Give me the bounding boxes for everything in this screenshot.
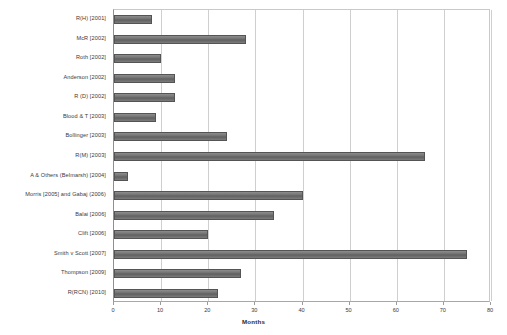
y-axis-label: R(RCN) [2010] bbox=[68, 289, 106, 296]
y-axis-label: A & Others (Belmarsh) [2004] bbox=[30, 172, 106, 179]
bar bbox=[114, 269, 241, 278]
bar-row bbox=[114, 170, 489, 182]
bar-row bbox=[114, 111, 489, 123]
bar bbox=[114, 93, 175, 102]
x-tick-mark-70 bbox=[443, 302, 444, 305]
bar bbox=[114, 74, 175, 83]
x-tick-mark-10 bbox=[160, 302, 161, 305]
bar-row bbox=[114, 268, 489, 280]
bar bbox=[114, 211, 274, 220]
plot-area bbox=[113, 9, 490, 302]
y-axis-label: Roth [2002] bbox=[76, 54, 106, 61]
y-axis-label: McR [2002] bbox=[76, 35, 106, 42]
x-tick-label-40: 40 bbox=[298, 306, 304, 314]
bar bbox=[114, 230, 208, 239]
x-tick-mark-0 bbox=[113, 302, 114, 305]
x-axis-ticks: 01020304050607080 bbox=[113, 302, 490, 316]
x-tick-label-30: 30 bbox=[251, 306, 257, 314]
x-tick-mark-60 bbox=[396, 302, 397, 305]
y-axis-label: Bollinger [2003] bbox=[66, 132, 106, 139]
x-tick-label-0: 0 bbox=[111, 306, 114, 314]
x-tick-mark-20 bbox=[207, 302, 208, 305]
bar bbox=[114, 289, 218, 298]
x-tick-label-20: 20 bbox=[204, 306, 210, 314]
bar-row bbox=[114, 229, 489, 241]
y-axis-label: Smith v Scott [2007] bbox=[54, 250, 106, 257]
y-axis-label: Morris [2005] and Gabaj (2006) bbox=[25, 191, 106, 198]
bar bbox=[114, 15, 152, 24]
gridline-80 bbox=[491, 10, 492, 301]
x-tick-label-50: 50 bbox=[346, 306, 352, 314]
bar-row bbox=[114, 190, 489, 202]
y-axis-label: Blood & T [2003] bbox=[63, 113, 106, 120]
bar-rows bbox=[114, 10, 489, 301]
y-axis-label: Thompson [2009] bbox=[61, 269, 106, 276]
x-tick-label-80: 80 bbox=[487, 306, 493, 314]
bar-row bbox=[114, 14, 489, 26]
y-axis-label: R(M) [2003] bbox=[75, 152, 106, 159]
x-tick-mark-80 bbox=[490, 302, 491, 305]
y-axis-label: Balai [2006] bbox=[75, 211, 106, 218]
x-tick-mark-50 bbox=[349, 302, 350, 305]
bar bbox=[114, 54, 161, 63]
bar-row bbox=[114, 287, 489, 299]
bar-row bbox=[114, 33, 489, 45]
bar-row bbox=[114, 92, 489, 104]
x-axis-title: Months bbox=[0, 318, 507, 325]
bar-row bbox=[114, 209, 489, 221]
bar bbox=[114, 250, 467, 259]
y-axis-category-labels: R(H) [2001]McR [2002]Roth [2002]Anderson… bbox=[0, 9, 110, 302]
bar bbox=[114, 191, 303, 200]
bar-chart: R(H) [2001]McR [2002]Roth [2002]Anderson… bbox=[0, 0, 507, 335]
x-tick-mark-30 bbox=[254, 302, 255, 305]
bar-row bbox=[114, 72, 489, 84]
bar bbox=[114, 35, 246, 44]
x-tick-label-10: 10 bbox=[157, 306, 163, 314]
y-axis-label: R (D) [2002] bbox=[74, 93, 106, 100]
y-axis-label: Clift [2006] bbox=[78, 230, 106, 237]
y-axis-label: R(H) [2001] bbox=[76, 15, 106, 22]
bar-row bbox=[114, 151, 489, 163]
bar-row bbox=[114, 131, 489, 143]
bar-row bbox=[114, 53, 489, 65]
x-tick-mark-40 bbox=[302, 302, 303, 305]
bar bbox=[114, 113, 156, 122]
bar-row bbox=[114, 248, 489, 260]
x-tick-label-70: 70 bbox=[440, 306, 446, 314]
bar bbox=[114, 172, 128, 181]
bar bbox=[114, 132, 227, 141]
bar bbox=[114, 152, 425, 161]
x-tick-label-60: 60 bbox=[393, 306, 399, 314]
y-axis-label: Anderson [2002] bbox=[63, 74, 106, 81]
